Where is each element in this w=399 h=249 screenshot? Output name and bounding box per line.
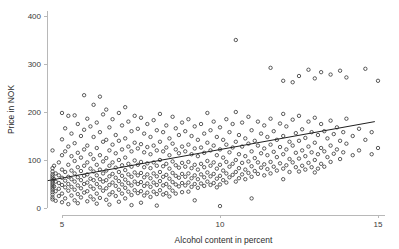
data-point <box>79 169 82 172</box>
data-point <box>168 186 171 189</box>
data-point <box>250 150 253 153</box>
data-point <box>338 157 341 160</box>
data-point <box>120 174 123 177</box>
data-point <box>82 164 85 167</box>
data-point <box>136 127 139 130</box>
data-point <box>282 112 285 115</box>
data-point <box>165 173 168 176</box>
data-point <box>272 165 275 168</box>
data-point <box>259 132 262 135</box>
data-point <box>193 125 196 128</box>
data-point <box>225 181 228 184</box>
data-point <box>146 191 149 194</box>
data-point <box>133 180 136 183</box>
data-point <box>70 132 73 135</box>
data-point <box>177 176 180 179</box>
data-point <box>240 161 243 164</box>
data-point <box>89 153 92 156</box>
data-point <box>199 173 202 176</box>
data-point <box>54 199 57 202</box>
data-point <box>155 129 158 132</box>
data-point <box>234 170 237 173</box>
data-point <box>133 141 136 144</box>
data-point <box>253 156 256 159</box>
data-point <box>240 173 243 176</box>
data-point <box>313 171 316 174</box>
data-point <box>117 158 120 161</box>
data-point <box>98 186 101 189</box>
data-point <box>168 167 171 170</box>
data-point <box>79 134 82 137</box>
data-point <box>196 178 199 181</box>
data-point <box>234 180 237 183</box>
data-point <box>244 178 247 181</box>
data-point <box>338 69 341 72</box>
data-point <box>67 145 70 148</box>
data-point <box>127 120 130 123</box>
data-point <box>250 129 253 132</box>
data-point <box>92 187 95 190</box>
data-point <box>149 153 152 156</box>
data-point <box>187 181 190 184</box>
data-point <box>70 178 73 181</box>
data-point <box>171 189 174 192</box>
data-point <box>89 125 92 128</box>
data-point <box>67 114 70 117</box>
data-point <box>297 139 300 142</box>
data-point <box>307 145 310 148</box>
data-point <box>101 113 104 116</box>
data-point <box>155 192 158 195</box>
scatter-chart: 010020030040051015Alcohol content in per… <box>0 0 399 249</box>
y-tick-label: 0 <box>37 204 42 213</box>
data-point <box>218 126 221 129</box>
data-point <box>149 135 152 138</box>
data-point <box>250 175 253 178</box>
data-point <box>376 79 379 82</box>
data-point <box>133 189 136 192</box>
data-point <box>288 140 291 143</box>
data-point <box>111 181 114 184</box>
y-tick-label: 200 <box>28 108 42 117</box>
data-point <box>237 153 240 156</box>
data-point <box>231 162 234 165</box>
data-point <box>108 183 111 186</box>
data-point <box>304 136 307 139</box>
data-point <box>136 174 139 177</box>
data-point <box>146 122 149 125</box>
data-point <box>63 186 66 189</box>
data-point <box>130 193 133 196</box>
data-point <box>297 157 300 160</box>
data-point <box>146 182 149 185</box>
data-point <box>60 168 63 171</box>
data-point <box>304 154 307 157</box>
data-point <box>329 144 332 147</box>
data-point <box>190 177 193 180</box>
data-point <box>165 146 168 149</box>
data-point <box>247 171 250 174</box>
data-point <box>329 119 332 122</box>
data-point <box>76 176 79 179</box>
data-point <box>269 66 272 69</box>
data-point <box>266 135 269 138</box>
data-point <box>332 132 335 135</box>
data-point <box>206 180 209 183</box>
data-point <box>152 181 155 184</box>
data-point <box>370 153 373 156</box>
data-point <box>98 130 101 133</box>
data-point <box>171 171 174 174</box>
data-point <box>278 122 281 125</box>
data-point <box>180 121 183 124</box>
data-point <box>158 140 161 143</box>
data-point <box>60 183 63 186</box>
data-point <box>316 133 319 136</box>
data-point <box>307 68 310 71</box>
data-point <box>63 170 66 173</box>
data-point <box>117 179 120 182</box>
data-point <box>218 174 221 177</box>
data-point <box>60 192 63 195</box>
data-point <box>60 138 63 141</box>
data-point <box>221 169 224 172</box>
data-point <box>319 70 322 73</box>
x-axis-title: Alcohol content in percent <box>175 235 273 245</box>
data-point <box>193 199 196 202</box>
